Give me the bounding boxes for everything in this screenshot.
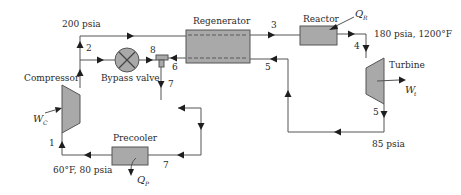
- precooler-label: Precooler: [113, 133, 158, 143]
- condition-turbine-outlet: 85 psia: [372, 139, 406, 149]
- state-8-label: 8: [150, 45, 156, 55]
- arrow-icon: [381, 111, 388, 118]
- state-5-turbine-label: 5: [373, 107, 379, 117]
- compressor: Compressor W C: [24, 73, 80, 133]
- condition-compressor-inlet: 60°F, 80 psia: [53, 165, 113, 175]
- arrow-icon: [97, 57, 104, 64]
- arrow-icon: [55, 107, 62, 113]
- arrow-icon: [84, 152, 91, 159]
- condition-compressor-outlet: 200 psia: [62, 19, 101, 29]
- state-7-tee-label: 7: [168, 79, 174, 89]
- regenerator: Regenerator: [186, 16, 251, 63]
- turbine-label: Turbine: [389, 60, 425, 70]
- regenerator-label: Regenerator: [193, 16, 251, 26]
- state-7-precooler-label: 7: [163, 160, 169, 170]
- reactor: Reactor Q R: [300, 8, 368, 45]
- cycle-diagram: Compressor W C Bypass valve Regenerator …: [0, 0, 461, 195]
- state-5-regen-label: 5: [265, 62, 271, 72]
- arrow-icon: [270, 56, 277, 63]
- condition-turbine-inlet: 180 psia, 1200°F: [374, 29, 452, 39]
- precooler: Precooler Q P: [112, 133, 158, 187]
- arrow-icon: [177, 152, 184, 159]
- state-4-label: 4: [354, 41, 360, 51]
- tee-stem: [159, 60, 164, 67]
- reactor-heat-subscript: R: [362, 14, 368, 21]
- tee-junction: [156, 55, 168, 67]
- arrow-icon: [128, 169, 134, 176]
- arrow-icon: [285, 90, 292, 97]
- bypass-valve-label: Bypass valve: [101, 73, 160, 83]
- arrow-icon: [146, 57, 153, 64]
- pipe-state7: [148, 108, 201, 155]
- compressor-work-subscript: C: [43, 119, 48, 126]
- arrow-icon: [268, 32, 275, 39]
- precooler-heat-subscript: P: [144, 180, 150, 187]
- pipe-state1: [62, 133, 112, 155]
- arrow-icon: [59, 141, 66, 148]
- precooler-shape: [112, 147, 148, 165]
- turbine-work-subscript: t: [414, 90, 417, 97]
- arrow-icon: [348, 31, 355, 38]
- arrow-icon: [170, 55, 177, 62]
- arrow-icon: [178, 105, 185, 112]
- state-1-label: 1: [49, 138, 55, 148]
- precooler-heat-symbol: Q: [137, 174, 145, 185]
- arrow-icon: [77, 41, 84, 48]
- reactor-label: Reactor: [303, 14, 340, 24]
- arrow-icon: [127, 33, 134, 40]
- compressor-shaft-icon: [45, 110, 55, 113]
- compressor-label: Compressor: [24, 73, 80, 83]
- turbine: Turbine W t: [366, 58, 425, 104]
- reactor-heat-symbol: Q: [355, 8, 363, 19]
- arrow-icon: [363, 45, 370, 52]
- arrow-icon: [198, 123, 205, 130]
- tee-top: [156, 55, 168, 60]
- state-2-label: 2: [86, 43, 92, 53]
- arrow-icon: [399, 77, 406, 84]
- arrow-icon: [334, 129, 341, 136]
- state-6-label: 6: [172, 62, 178, 72]
- compressor-shape: [62, 85, 80, 133]
- state-3-label: 3: [271, 20, 277, 30]
- pipe-state4: [337, 34, 366, 58]
